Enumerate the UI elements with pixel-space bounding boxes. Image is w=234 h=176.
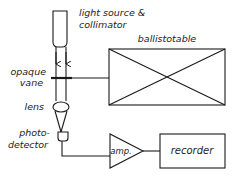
- photodetector-icon: [58, 132, 68, 141]
- detector-label-1: photo-: [18, 127, 50, 138]
- light-beam: [56, 47, 66, 101]
- ballistotable-label: ballistotable: [138, 33, 196, 44]
- vane-label-2: vane: [20, 77, 43, 88]
- ballistotable-box: [109, 49, 225, 105]
- focus-cone: [55, 111, 67, 132]
- lens-icon: [53, 102, 69, 112]
- amp-label: amp.: [110, 146, 132, 156]
- recorder-label: recorder: [171, 145, 214, 156]
- diagram-canvas: light source & collimator opaque vane ba…: [0, 0, 234, 176]
- light-source-label-1: light source &: [79, 7, 145, 18]
- vane-label-1: opaque: [10, 66, 46, 77]
- signal-wire: [62, 141, 110, 156]
- light-source-label-2: collimator: [79, 19, 128, 30]
- lens-label: lens: [25, 101, 45, 112]
- detector-label-2: detector: [8, 139, 49, 150]
- light-source-collimator: [53, 11, 67, 47]
